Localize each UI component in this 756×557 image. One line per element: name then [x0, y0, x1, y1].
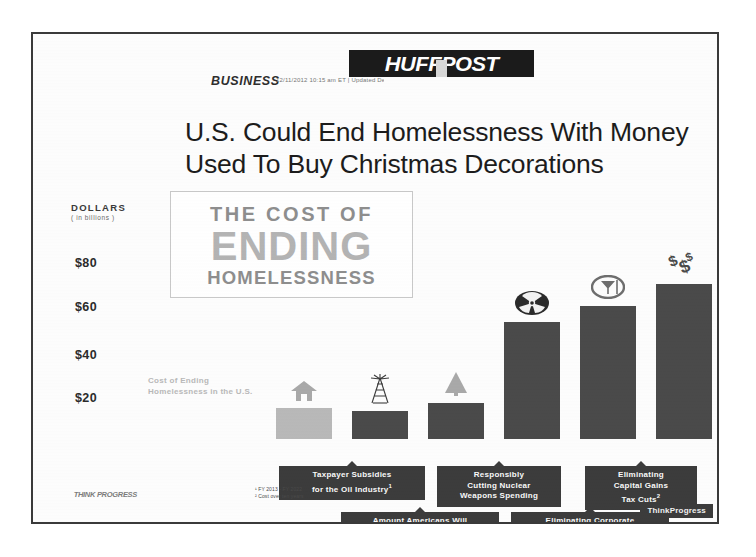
- y-tick-40: $40: [75, 348, 97, 362]
- house-icon: [291, 381, 317, 405]
- infographic-title-line1: THE COST OF: [171, 203, 412, 226]
- axis-title: DOLLARS: [71, 202, 126, 213]
- infographic-title-box: THE COST OF ENDING HOMELESSNESS: [170, 191, 413, 298]
- label-pointer-5: [585, 507, 595, 512]
- infographic-title-line2: ENDING: [171, 227, 412, 265]
- label-line: Weapons Spending: [441, 491, 557, 502]
- bar-5: [580, 306, 636, 439]
- bar-label-3: Amount Americans WillSpend on ChristmasD…: [341, 512, 499, 524]
- label-pointer-2: [347, 461, 357, 466]
- footnote-1: ¹ FY 2013 - FY 2022: [255, 486, 304, 493]
- label-pointer-4: [494, 461, 504, 466]
- logo-right-bar: [436, 60, 447, 77]
- footnote-marker: 1: [388, 483, 392, 489]
- footnote-marker: 2: [657, 493, 661, 499]
- y-tick-80: $80: [75, 256, 97, 270]
- article-headline: U.S. Could End Homelessness With Money U…: [185, 116, 705, 180]
- huffpost-logo[interactable]: HUFFPOST: [349, 50, 534, 77]
- oil-derrick-icon: [369, 374, 391, 408]
- label-line: Eliminating: [589, 470, 693, 481]
- y-tick-20: $20: [75, 391, 97, 405]
- bar-4: [504, 322, 560, 439]
- infographic-frame: HUFFPOST BUSINESS 12/11/2012 10:15 am ET…: [31, 32, 719, 524]
- byline-timestamp: 12/11/2012 10:15 am ET | Updated Dec 11,…: [276, 77, 384, 83]
- section-label[interactable]: BUSINESS: [211, 74, 280, 88]
- infographic-title-line3: HOMELESSNESS: [171, 267, 412, 289]
- y-tick-60: $60: [75, 300, 97, 314]
- christmas-tree-icon: [443, 372, 469, 400]
- radiation-icon: [515, 291, 549, 319]
- bar-6: $$$: [656, 284, 712, 439]
- bar-1: [276, 408, 332, 439]
- bar-3: [428, 403, 484, 439]
- bar-label-4: ResponsiblyCutting NuclearWeapons Spendi…: [437, 466, 561, 507]
- label-line: Amount Americans Will: [345, 516, 495, 524]
- footnote-2: ² Cost over ten years: [255, 493, 304, 500]
- label-line: Cutting Nuclear: [441, 481, 557, 492]
- dollar-signs-icon: $$$: [667, 249, 701, 281]
- footnotes: ¹ FY 2013 - FY 2022² Cost over ten years: [255, 486, 304, 500]
- thinkprogress-logo-text: THINK PROGRESS: [74, 490, 137, 499]
- label-pointer-6: [636, 461, 646, 466]
- axis-subtitle: ( in billions ): [71, 214, 115, 221]
- thinkprogress-watermark: ThinkProgress: [640, 504, 713, 518]
- label-line: Capital Gains: [589, 481, 693, 492]
- label-pointer-3: [415, 507, 425, 512]
- thinkprogress-logo[interactable]: THINK PROGRESS: [65, 491, 137, 508]
- martini-icon: [591, 275, 625, 303]
- bar-2: [352, 411, 408, 439]
- label-line: Taxpayer Subsidies: [283, 470, 421, 481]
- label-line: Responsibly: [441, 470, 557, 481]
- cost-of-ending-homelessness-caption: Cost of Ending Homelessness in the U.S.: [148, 375, 256, 397]
